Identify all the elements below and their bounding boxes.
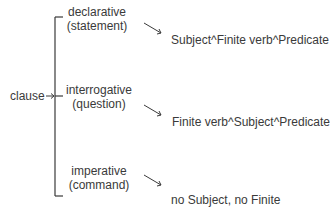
root-label: clause: [10, 89, 45, 103]
branch-declarative: declarative (statement): [60, 5, 134, 33]
structure-imperative: no Subject, no Finite: [171, 193, 280, 207]
structure-declarative: Subject^Finite verb^Predicate: [171, 33, 329, 47]
branch-type: declarative: [60, 5, 134, 19]
branch-type: imperative: [60, 164, 138, 178]
branch-gloss: (command): [60, 178, 138, 192]
branch-gloss: (question): [60, 97, 138, 111]
branch-interrogative: interrogative (question): [60, 83, 138, 111]
branch-imperative: imperative (command): [60, 164, 138, 192]
branch-gloss: (statement): [60, 19, 134, 33]
structure-interrogative: Finite verb^Subject^Predicate: [172, 115, 330, 129]
branch-type: interrogative: [60, 83, 138, 97]
